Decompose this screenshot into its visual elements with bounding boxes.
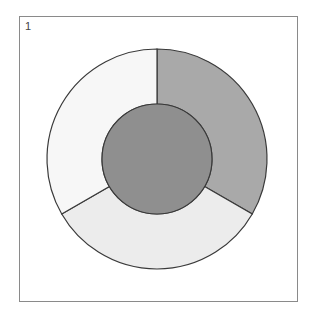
donut-diagram	[0, 0, 311, 317]
center-circle	[102, 104, 212, 214]
